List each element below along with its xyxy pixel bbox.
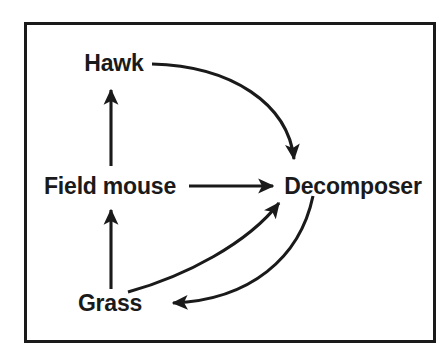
node-label-decomposer: Decomposer (284, 175, 421, 198)
node-label-hawk: Hawk (84, 52, 143, 75)
node-label-field-mouse: Field mouse (44, 175, 176, 198)
edge-hawk-to-decomposer (152, 64, 294, 159)
node-label-grass: Grass (78, 292, 142, 315)
edge-decomposer-to-grass (173, 196, 313, 303)
food-web-diagram: Hawk Field mouse Decomposer Grass (0, 0, 445, 363)
